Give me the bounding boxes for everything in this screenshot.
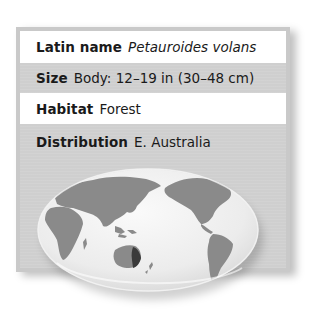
latin-name-value: Petauroides volans bbox=[128, 39, 256, 55]
distribution-value: E. Australia bbox=[134, 134, 211, 150]
size-label: Size bbox=[36, 70, 68, 86]
latin-name-label: Latin name bbox=[36, 39, 122, 55]
latin-name-row: Latin name Petauroides volans bbox=[20, 31, 286, 63]
size-value: Body: 12–19 in (30–48 cm) bbox=[74, 70, 254, 86]
size-row: Size Body: 12–19 in (30–48 cm) bbox=[20, 63, 286, 93]
habitat-row: Habitat Forest bbox=[20, 93, 286, 124]
habitat-label: Habitat bbox=[36, 101, 93, 117]
distribution-label: Distribution bbox=[36, 134, 128, 150]
world-map-icon bbox=[37, 168, 259, 296]
distribution-map bbox=[37, 168, 259, 296]
habitat-value: Forest bbox=[99, 101, 140, 117]
